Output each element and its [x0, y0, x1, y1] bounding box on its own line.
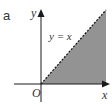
origin-label: O — [32, 86, 41, 101]
x-axis-label: x — [102, 88, 107, 103]
panel-label: a — [3, 8, 10, 23]
line-equation-label: y = x — [49, 30, 72, 42]
coordinate-plane — [0, 0, 112, 104]
region-diagram: a y y = x O x — [0, 0, 112, 104]
y-axis-arrow-icon — [38, 9, 45, 17]
y-axis-label: y — [31, 6, 36, 21]
